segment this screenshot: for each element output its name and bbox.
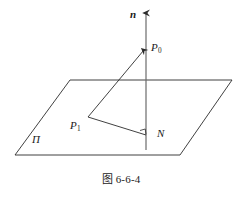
geometry-diagram <box>0 0 242 197</box>
figure-container: n P0 P1 N Π 图 6-6-4 <box>0 0 242 197</box>
point-p0-base: P <box>151 41 158 53</box>
vector-p1-to-p0 <box>88 51 144 118</box>
point-p1-subscript: 1 <box>77 125 81 133</box>
figure-caption: 图 6-6-4 <box>0 170 242 186</box>
foot-point-label: N <box>157 128 164 139</box>
plane-parallelogram <box>15 80 232 155</box>
segment-p1-to-n <box>88 117 146 135</box>
point-p0-label: P0 <box>151 42 161 53</box>
normal-vector-label: n <box>130 9 136 20</box>
point-p1-label: P1 <box>70 120 80 131</box>
plane-label: Π <box>32 134 40 145</box>
point-p0-subscript: 0 <box>158 47 162 55</box>
point-p1-base: P <box>70 119 77 131</box>
